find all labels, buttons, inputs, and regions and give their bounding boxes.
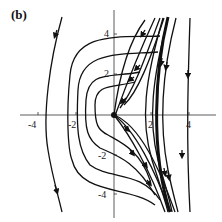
axes: [20, 10, 216, 218]
phase-portrait: -4 -2 2 4 4 2 -2 -4: [0, 0, 222, 222]
x-tick: -2: [68, 119, 76, 130]
trajectories: [46, 17, 190, 212]
x-tick: -4: [28, 119, 36, 130]
y-tick: -4: [98, 189, 106, 200]
y-tick: 4: [104, 28, 109, 39]
x-tick: 4: [186, 119, 191, 130]
equilibrium-point: [111, 112, 117, 118]
y-tick: 2: [104, 68, 109, 79]
y-tick: -2: [98, 150, 106, 161]
